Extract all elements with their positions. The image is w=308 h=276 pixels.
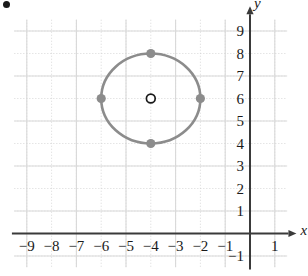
y-tick-label: 8	[237, 46, 245, 61]
x-tick-label: −7	[68, 239, 84, 254]
y-tick-label: 1	[237, 204, 245, 219]
y-tick-label: 4	[237, 136, 245, 151]
y-tick-label: 3	[237, 159, 245, 174]
y-tick-label: −1	[228, 249, 244, 264]
y-tick-label: 2	[237, 181, 245, 196]
y-tick-label: 6	[237, 91, 245, 106]
coordinate-plane	[0, 0, 308, 276]
y-tick-label: 7	[237, 69, 245, 84]
x-axis-label: x	[300, 223, 307, 238]
x-tick-label: 1	[271, 239, 279, 254]
axis-lines	[12, 6, 297, 269]
x-tick-label: −8	[44, 239, 60, 254]
x-tick-label: −5	[118, 239, 134, 254]
figure-canvas: −9−8−7−6−5−4−3−2−11987654321−1 x y	[0, 0, 308, 276]
y-tick-label: 9	[237, 24, 245, 39]
x-tick-label: −2	[192, 239, 208, 254]
y-axis-label: y	[254, 0, 261, 11]
x-tick-label: −6	[93, 239, 109, 254]
x-tick-label: −9	[19, 239, 35, 254]
x-tick-label: −3	[168, 239, 184, 254]
x-tick-label: −4	[143, 239, 159, 254]
y-tick-label: 5	[237, 114, 245, 129]
